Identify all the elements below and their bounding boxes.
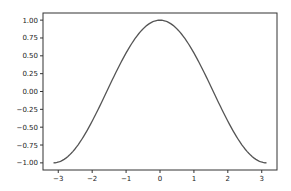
plot-area xyxy=(43,13,277,170)
line-chart: 1.000.750.500.250.00−0.25−0.50−0.75−1.00… xyxy=(0,0,291,191)
x-tick-label: 0 xyxy=(158,175,162,183)
y-tick-label: 0.50 xyxy=(22,52,38,60)
y-tick-label: 0.25 xyxy=(22,70,38,78)
x-tick-label: −2 xyxy=(87,175,97,183)
x-tick-label: 2 xyxy=(226,175,230,183)
y-tick-label: 0.00 xyxy=(22,88,38,96)
y-tick-label: −0.75 xyxy=(17,142,38,150)
x-tick-label: 1 xyxy=(192,175,196,183)
x-tick-label: −1 xyxy=(121,175,131,183)
y-tick-label: −0.50 xyxy=(17,124,38,132)
x-axis: −3−2−10123 xyxy=(53,170,264,183)
x-tick-label: 3 xyxy=(260,175,264,183)
x-tick-label: −3 xyxy=(53,175,63,183)
y-axis: 1.000.750.500.250.00−0.25−0.50−0.75−1.00 xyxy=(17,17,43,168)
y-tick-label: −0.25 xyxy=(17,106,38,114)
y-tick-label: −1.00 xyxy=(17,159,38,167)
y-tick-label: 0.75 xyxy=(22,34,38,42)
y-tick-label: 1.00 xyxy=(22,17,38,25)
